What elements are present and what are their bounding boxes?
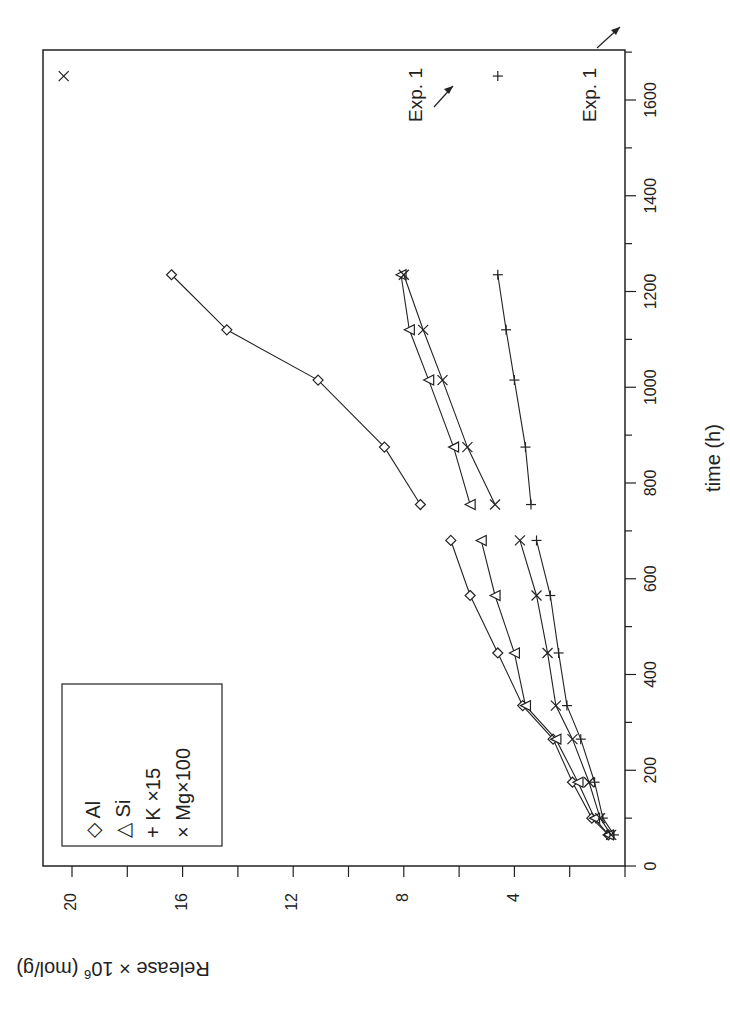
annotation-exp1-mg: Exp. 1 xyxy=(579,27,620,122)
y-tick-label: 8 xyxy=(394,893,411,902)
series-si xyxy=(396,270,613,840)
svg-text:Release × 106 (mol/g): Release × 106 (mol/g) xyxy=(16,958,209,982)
series-al xyxy=(167,270,614,840)
y-tick-label: 16 xyxy=(173,893,190,911)
legend: ◇ Al△ Si+ K ×15× Mg×100 xyxy=(62,684,222,846)
x-tick-label: 1400 xyxy=(642,178,659,214)
x-tick-label: 400 xyxy=(642,661,659,688)
legend-item: ◇ Al xyxy=(82,801,104,838)
legend-item: + K ×15 xyxy=(142,768,164,838)
x-tick-label: 0 xyxy=(642,861,659,870)
x-tick-label: 800 xyxy=(642,470,659,497)
legend-item: △ Si xyxy=(112,800,134,838)
x-tick-label: 1600 xyxy=(642,82,659,118)
y-tick-label: 12 xyxy=(283,893,300,911)
x-tick-label: 1200 xyxy=(642,274,659,310)
chart: 0200400600800100012001400160048121620 ◇ … xyxy=(0,0,730,1019)
x-tick-label: 1000 xyxy=(642,369,659,405)
x-tick-label: 200 xyxy=(642,757,659,784)
series-k-15 xyxy=(493,71,619,840)
svg-text:Exp. 1: Exp. 1 xyxy=(405,68,426,122)
x-axis-label: time (h) xyxy=(702,424,724,492)
y-axis-label: Release × 106 (mol/g) xyxy=(16,958,209,982)
x-tick-label: 600 xyxy=(642,565,659,592)
y-tick-label: 20 xyxy=(62,893,79,911)
legend-item: × Mg×100 xyxy=(172,748,194,838)
annotation-exp1-k: Exp. 1 xyxy=(405,68,453,122)
svg-text:Exp. 1: Exp. 1 xyxy=(579,68,600,122)
y-tick-label: 4 xyxy=(505,893,522,902)
